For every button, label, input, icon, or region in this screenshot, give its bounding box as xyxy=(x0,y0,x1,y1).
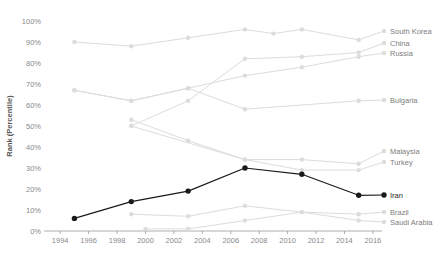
series-label-iran: Iran xyxy=(390,191,403,200)
series-line-malaysia xyxy=(131,120,358,164)
series-line-bulgaria xyxy=(74,88,358,109)
y-tick-label: 70% xyxy=(26,80,41,89)
series-label-china: China xyxy=(390,39,410,48)
series-line-russia xyxy=(74,57,358,101)
y-tick-label: 0% xyxy=(30,227,41,236)
data-point xyxy=(243,73,247,77)
data-point xyxy=(186,99,190,103)
data-point xyxy=(271,31,275,35)
series-leader-line xyxy=(359,53,384,57)
series-lines xyxy=(74,29,384,229)
x-tick-label: 2008 xyxy=(251,236,268,245)
data-point xyxy=(356,212,360,216)
x-tick-label: 2002 xyxy=(166,236,183,245)
y-tick-label: 50% xyxy=(26,122,41,131)
x-tick-label: 1998 xyxy=(109,236,126,245)
data-point xyxy=(243,218,247,222)
series-label-south-korea: South Korea xyxy=(390,27,433,36)
series-end-marker xyxy=(382,149,386,153)
series-labels: South KoreaChinaRussiaBulgariaMalaysiaTu… xyxy=(390,27,433,227)
series-end-marker xyxy=(382,220,386,224)
data-point xyxy=(186,227,190,231)
data-point xyxy=(186,139,190,143)
data-point xyxy=(72,216,77,221)
data-point xyxy=(129,99,133,103)
data-point xyxy=(243,27,247,31)
data-point xyxy=(356,99,360,103)
data-point xyxy=(186,36,190,40)
x-tick-label: 2006 xyxy=(222,236,239,245)
line-chart: 0%10%20%30%40%50%60%70%80%90%100% 199419… xyxy=(0,0,437,257)
data-point xyxy=(129,44,133,48)
data-point xyxy=(243,107,247,111)
data-point xyxy=(243,57,247,61)
y-axis-title: Rank (Percentile) xyxy=(5,95,14,157)
x-tick-label: 2016 xyxy=(365,236,382,245)
x-tick-label: 1996 xyxy=(80,236,97,245)
y-tick-label: 20% xyxy=(26,185,41,194)
data-point xyxy=(185,188,190,193)
series-line-saudi-arabia xyxy=(145,212,358,229)
data-point xyxy=(72,88,76,92)
x-tick-label: 2010 xyxy=(279,236,296,245)
series-label-turkey: Turkey xyxy=(390,158,413,167)
series-line-south-korea xyxy=(74,29,358,46)
series-end-marker xyxy=(382,210,386,214)
data-point xyxy=(356,218,360,222)
series-label-bulgaria: Bulgaria xyxy=(390,96,418,105)
x-tick-label: 1994 xyxy=(52,236,69,245)
data-point xyxy=(242,165,247,170)
series-end-marker xyxy=(382,160,386,164)
y-axis-ticks: 0%10%20%30%40%50%60%70%80%90%100% xyxy=(22,17,42,236)
data-point xyxy=(356,168,360,172)
data-point xyxy=(356,162,360,166)
series-label-brazil: Brazil xyxy=(390,208,409,217)
y-tick-label: 40% xyxy=(26,143,41,152)
y-tick-label: 30% xyxy=(26,164,41,173)
data-point xyxy=(356,38,360,42)
data-point xyxy=(129,124,133,128)
x-axis-ticks: 1994199619982000200220042006200820102012… xyxy=(52,231,381,245)
data-point xyxy=(356,50,360,54)
data-point xyxy=(300,157,304,161)
data-point xyxy=(72,40,76,44)
data-point xyxy=(299,172,304,177)
y-tick-label: 80% xyxy=(26,59,41,68)
series-label-malaysia: Malaysia xyxy=(390,147,420,156)
series-line-china xyxy=(131,53,358,127)
x-tick-label: 2014 xyxy=(336,236,353,245)
x-tick-label: 2004 xyxy=(194,236,211,245)
y-tick-label: 100% xyxy=(22,17,42,26)
series-markers xyxy=(72,27,387,231)
data-point xyxy=(243,157,247,161)
data-point xyxy=(300,210,304,214)
series-leader-line xyxy=(359,43,384,53)
data-point xyxy=(143,227,147,231)
series-leader-line xyxy=(359,212,384,214)
chart-container: 0%10%20%30%40%50%60%70%80%90%100% 199419… xyxy=(0,0,437,257)
data-point xyxy=(356,193,361,198)
series-label-russia: Russia xyxy=(390,49,414,58)
series-leader-line xyxy=(359,221,384,223)
data-point xyxy=(186,86,190,90)
x-tick-label: 2012 xyxy=(308,236,325,245)
data-point xyxy=(129,118,133,122)
series-end-marker xyxy=(382,29,386,33)
series-leader-line xyxy=(359,100,384,101)
series-end-marker xyxy=(382,98,386,102)
y-tick-label: 60% xyxy=(26,101,41,110)
y-tick-label: 10% xyxy=(26,206,41,215)
series-end-marker xyxy=(382,51,386,55)
series-end-marker xyxy=(381,192,386,197)
data-point xyxy=(186,214,190,218)
series-end-marker xyxy=(382,41,386,45)
series-leader-line xyxy=(359,151,384,164)
data-point xyxy=(243,204,247,208)
data-point xyxy=(300,55,304,59)
x-tick-label: 2000 xyxy=(137,236,154,245)
data-point xyxy=(356,55,360,59)
y-tick-label: 90% xyxy=(26,38,41,47)
data-point xyxy=(129,199,134,204)
series-label-saudi-arabia: Saudi Arabia xyxy=(390,218,433,227)
data-point xyxy=(300,27,304,31)
